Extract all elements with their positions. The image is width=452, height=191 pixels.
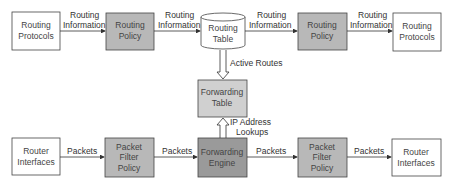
node-label: Engine <box>209 158 236 168</box>
node-label: Interfaces <box>397 158 434 168</box>
routing-protocols-right-node: Routing Protocols <box>393 13 441 51</box>
node-label: Policy <box>311 31 334 41</box>
router-interfaces-right-node: Router Interfaces <box>392 139 441 176</box>
node-label: Policy <box>311 163 334 173</box>
node-label: Filter <box>313 152 332 162</box>
routing-policy-right-node: Routing Policy <box>298 13 347 50</box>
routing-protocols-left-node: Routing Protocols <box>12 12 60 50</box>
node-label: Routing <box>208 23 238 33</box>
node-label: Protocols <box>399 32 434 42</box>
node-label: Routing <box>402 21 432 31</box>
router-architecture-diagram: Routing Protocols Routing Policy Routing… <box>0 0 452 191</box>
node-label: Forwarding <box>201 87 244 97</box>
node-label: Routing <box>21 20 51 30</box>
edge-label: IP Address <box>230 117 271 127</box>
node-label: Filter <box>120 152 139 162</box>
node-label: Router <box>403 147 429 157</box>
node-label: Table <box>212 98 233 108</box>
edge-label: Lookups <box>236 127 268 137</box>
router-interfaces-left-node: Router Interfaces <box>12 138 60 175</box>
edge-label: Information <box>249 20 292 30</box>
packet-filter-policy-left-node: Packet Filter Policy <box>105 138 154 177</box>
routing-policy-left-node: Routing Policy <box>106 13 154 50</box>
edge-label: Information <box>350 20 393 30</box>
node-label: Policy <box>118 163 141 173</box>
forwarding-engine-node: Forwarding Engine <box>198 138 247 177</box>
edge-label: Routing <box>70 10 100 20</box>
edge-label: Packets <box>162 146 192 156</box>
active-routes-arrow <box>217 50 229 79</box>
edge-label: Information <box>158 20 201 30</box>
node-label: Packet <box>116 142 143 152</box>
node-label: Packet <box>309 142 336 152</box>
ip-lookups-arrow <box>217 118 229 138</box>
edge-label: Packets <box>67 146 97 156</box>
packet-filter-policy-right-node: Packet Filter Policy <box>298 138 347 177</box>
edge-label: Active Routes <box>230 58 282 68</box>
node-label: Interfaces <box>17 157 54 167</box>
edge-label: Routing <box>257 10 287 20</box>
node-label: Table <box>213 34 234 44</box>
node-label: Protocols <box>18 31 53 41</box>
edge-label: Routing <box>358 10 388 20</box>
node-label: Forwarding <box>201 147 244 157</box>
node-label: Routing <box>307 20 337 30</box>
node-label: Router <box>23 146 49 156</box>
routing-table-node: Routing Table <box>201 13 245 49</box>
edge-label: Packets <box>354 146 384 156</box>
edge-label: Information <box>63 20 106 30</box>
node-label: Policy <box>119 31 142 41</box>
forwarding-table-node: Forwarding Table <box>198 80 247 117</box>
edge-label: Routing <box>165 10 195 20</box>
node-label: Routing <box>115 20 145 30</box>
edge-label: Packets <box>256 146 286 156</box>
